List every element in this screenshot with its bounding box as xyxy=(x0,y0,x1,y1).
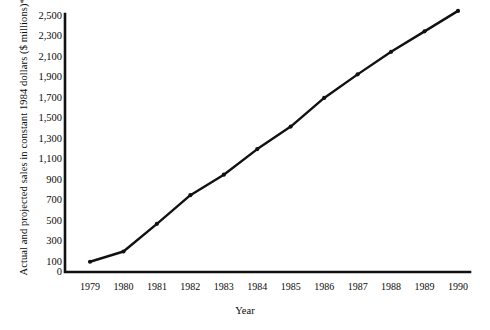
data-point-marker xyxy=(222,173,226,177)
data-point-marker xyxy=(422,29,426,33)
data-series-line xyxy=(90,11,458,262)
x-axis-title: Year xyxy=(0,305,490,316)
data-point-marker xyxy=(255,147,259,151)
data-point-marker xyxy=(188,193,192,197)
plot-area xyxy=(0,0,490,330)
data-point-marker xyxy=(322,96,326,100)
data-point-marker xyxy=(456,9,460,13)
data-point-marker xyxy=(289,124,293,128)
data-point-marker xyxy=(356,72,360,76)
chart-figure: Actual and projected sales in constant 1… xyxy=(0,0,490,330)
data-point-marker xyxy=(155,222,159,226)
data-point-marker xyxy=(88,260,92,264)
data-point-markers xyxy=(88,9,460,264)
data-point-marker xyxy=(121,249,125,253)
data-point-marker xyxy=(389,50,393,54)
